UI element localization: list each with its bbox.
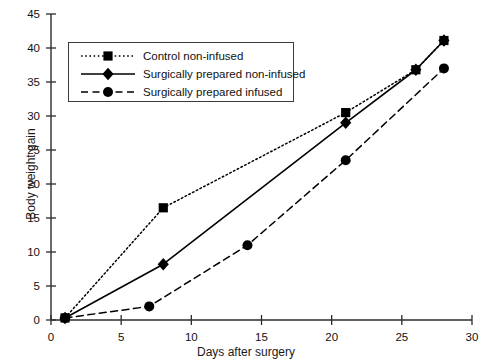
chart-legend: Control non-infusedSurgically prepared n… [68, 42, 294, 102]
x-tick-label: 10 [185, 331, 198, 343]
data-point-marker [340, 117, 351, 129]
y-axis-title: Body weight gain [24, 99, 38, 249]
y-tick-label: 45 [8, 8, 40, 20]
chart-container: 051015202530354045 051015202530 Body wei… [0, 0, 492, 364]
legend-rows: Control non-infusedSurgically prepared n… [69, 43, 293, 101]
x-tick-label: 5 [118, 331, 124, 343]
legend-item-label: Surgically prepared non-infused [137, 68, 305, 80]
legend-sample-diamond-icon [79, 66, 137, 82]
x-tick-label: 20 [325, 331, 338, 343]
data-point-marker [341, 155, 351, 165]
data-point-marker [341, 108, 350, 117]
data-point-marker [103, 51, 112, 60]
legend-item[interactable]: Surgically prepared non-infused [79, 65, 293, 83]
legend-item[interactable]: Control non-infused [79, 47, 293, 65]
legend-item-label: Surgically prepared infused [137, 86, 282, 98]
data-point-marker [103, 87, 113, 97]
legend-sample-square-icon [79, 48, 137, 64]
data-point-marker [159, 203, 168, 212]
legend-item-label: Control non-infused [137, 50, 243, 62]
data-point-marker [102, 68, 113, 80]
y-tick-label: 40 [8, 42, 40, 54]
data-point-marker [158, 258, 169, 270]
data-point-marker [242, 240, 252, 250]
x-tick-label: 0 [48, 331, 54, 343]
y-tick-label: 35 [8, 76, 40, 88]
y-tick-label: 5 [8, 280, 40, 292]
x-tick-label: 25 [395, 331, 408, 343]
x-axis-title: Days after surgery [0, 345, 492, 359]
legend-item[interactable]: Surgically prepared infused [79, 83, 293, 101]
y-tick-label: 0 [8, 314, 40, 326]
data-point-marker [144, 301, 154, 311]
x-tick-label: 30 [466, 331, 479, 343]
data-point-marker [60, 313, 70, 323]
x-tick-label: 15 [255, 331, 268, 343]
legend-sample-circle-icon [79, 84, 137, 100]
data-point-marker [439, 63, 449, 73]
